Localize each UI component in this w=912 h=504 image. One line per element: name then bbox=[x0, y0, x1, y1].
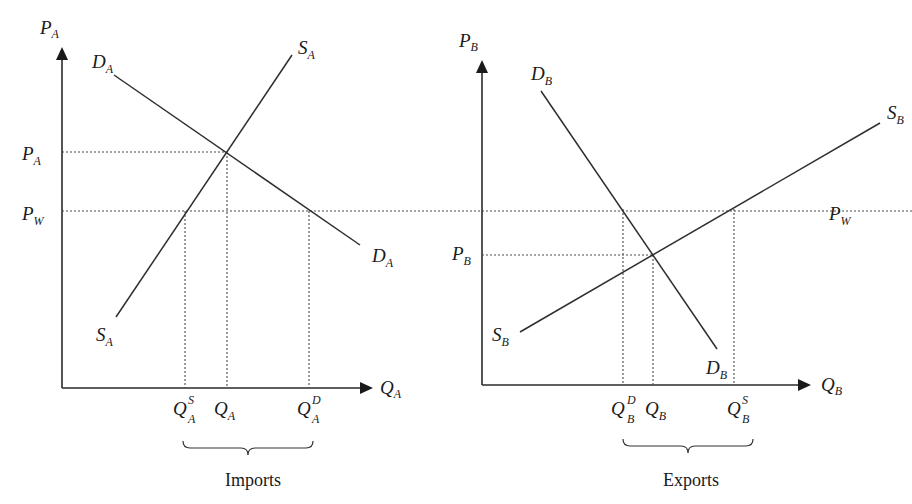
demand-curve-b bbox=[541, 91, 717, 349]
quantity-tick-qb-supply-sup: S bbox=[742, 393, 748, 407]
y-axis-label-b: PB bbox=[458, 30, 479, 54]
quantity-tick-qb-supply-sub: B bbox=[742, 412, 750, 426]
price-tick-pa: PA bbox=[21, 143, 42, 168]
demand-label-a-top: DA bbox=[91, 51, 114, 76]
quantity-tick-qb-demand-sub: B bbox=[627, 412, 635, 426]
imports-caption: Imports bbox=[225, 470, 281, 490]
quantity-tick-qb: QB bbox=[645, 398, 667, 423]
quantity-tick-qa-demand-sup: D bbox=[311, 393, 321, 407]
y-axis-arrow-icon bbox=[56, 47, 68, 60]
y-axis-arrow-icon bbox=[476, 60, 488, 73]
exports-caption: Exports bbox=[663, 470, 719, 490]
trade-diagram: PA QA DA DA SA SA PA PW Q S A QA Q D A I… bbox=[0, 0, 912, 504]
price-tick-pw-b: PW bbox=[828, 203, 852, 228]
demand-label-b-bottom: DB bbox=[705, 357, 728, 382]
quantity-tick-qb-supply: Q bbox=[727, 398, 741, 419]
panel-country-b: PB QB DB DB SB SB PB PW Q D B QB Q S B E… bbox=[451, 30, 905, 490]
supply-label-b-bottom: SB bbox=[492, 324, 510, 349]
x-axis-label-b: QB bbox=[821, 374, 843, 398]
price-tick-pb: PB bbox=[451, 243, 472, 268]
x-axis-label-a: QA bbox=[380, 377, 402, 401]
supply-curve-b bbox=[520, 123, 880, 332]
price-tick-pw-a: PW bbox=[21, 203, 45, 228]
quantity-tick-qa-demand-sub: A bbox=[311, 412, 320, 426]
quantity-tick-qa-supply-sup: S bbox=[188, 393, 194, 407]
quantity-tick-qb-demand: Q bbox=[611, 398, 625, 419]
supply-label-a-bottom: SA bbox=[96, 324, 114, 349]
quantity-tick-qa-demand: Q bbox=[297, 398, 311, 419]
demand-label-b-top: DB bbox=[530, 63, 553, 88]
quantity-tick-qa-supply-sub: A bbox=[187, 412, 196, 426]
quantity-tick-qb-demand-sup: D bbox=[626, 393, 636, 407]
supply-label-a-top: SA bbox=[298, 37, 316, 62]
y-axis-label-a: PA bbox=[39, 17, 60, 41]
x-axis-arrow-icon bbox=[360, 382, 373, 394]
exports-brace bbox=[623, 439, 753, 453]
imports-brace bbox=[183, 441, 313, 455]
x-axis-arrow-icon bbox=[798, 379, 811, 391]
supply-label-b-top: SB bbox=[887, 102, 905, 127]
quantity-tick-qa-supply: Q bbox=[173, 398, 187, 419]
demand-curve-a bbox=[114, 75, 360, 245]
quantity-tick-qa: QA bbox=[214, 398, 236, 423]
demand-label-a-bottom: DA bbox=[371, 245, 394, 270]
